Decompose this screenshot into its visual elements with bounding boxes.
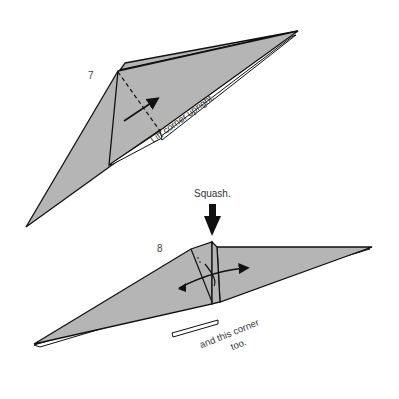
step-8-figure (34, 204, 372, 347)
step-8-left-wing (34, 242, 212, 344)
step-7-number: 7 (88, 70, 94, 81)
origami-diagram: 7 Lift corner upright. Squash. 8 and thi… (0, 0, 399, 399)
step-8-right-wing (217, 247, 372, 302)
step-8-number: 8 (157, 243, 163, 254)
squash-arrow-icon (204, 204, 221, 236)
step-8-squash-label: Squash. (194, 188, 231, 199)
